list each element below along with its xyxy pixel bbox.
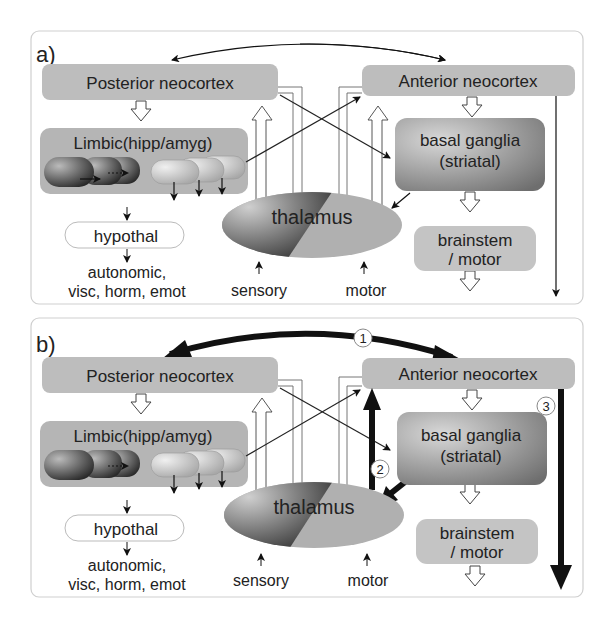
brainstem-sub: / motor <box>449 250 502 269</box>
basal-ganglia-label: basal ganglia <box>421 426 522 445</box>
marker-3-label: 3 <box>542 399 549 414</box>
basal-ganglia-sub: (striatal) <box>440 447 501 466</box>
limbic-label: Limbic(hipp/amyg) <box>74 134 213 153</box>
basal-ganglia-label: basal ganglia <box>420 131 521 150</box>
posterior-neocortex-label: Posterior neocortex <box>86 74 234 93</box>
anterior-neocortex-label: Anterior neocortex <box>399 365 538 384</box>
marker-1-label: 1 <box>359 331 366 346</box>
output-label-1: autonomic, <box>88 264 166 281</box>
basal-ganglia-sub: (striatal) <box>439 152 500 171</box>
panel-a: a) Posterior neocortex Anterior neocorte… <box>31 31 583 304</box>
amyg-pill <box>151 160 199 184</box>
thalamus-label: thalamus <box>273 496 354 518</box>
posterior-neocortex-label: Posterior neocortex <box>86 367 234 386</box>
brainstem-label: brainstem <box>440 524 515 543</box>
motor-label: motor <box>348 572 390 589</box>
brainstem-sub: / motor <box>451 543 504 562</box>
hypothal-label: hypothal <box>94 227 158 246</box>
output-label-2: visc, horm, emot <box>68 576 186 593</box>
panel-b-label: b) <box>36 332 56 357</box>
limbic-label: Limbic(hipp/amyg) <box>74 427 213 446</box>
output-label-1: autonomic, <box>88 557 166 574</box>
hipp-pill <box>44 157 94 187</box>
panel-b: b) 1 Posterior neocortex Anterior neocor… <box>31 318 583 597</box>
hypothal-label: hypothal <box>94 520 158 539</box>
sensory-label: sensory <box>233 572 289 589</box>
motor-label: motor <box>346 282 388 299</box>
diagram-canvas: a) Posterior neocortex Anterior neocorte… <box>0 0 614 628</box>
brainstem-label: brainstem <box>438 231 513 250</box>
output-label-2: visc, horm, emot <box>68 283 186 300</box>
sensory-label: sensory <box>231 282 287 299</box>
panel-a-label: a) <box>36 42 56 67</box>
anterior-neocortex-label: Anterior neocortex <box>399 72 538 91</box>
thalamus-label: thalamus <box>271 206 352 228</box>
marker-2-label: 2 <box>376 462 383 477</box>
